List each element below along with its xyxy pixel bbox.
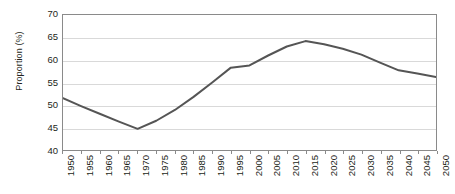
- x-axis-tick-mark: [100, 151, 101, 154]
- x-axis-tick-mark: [400, 151, 401, 154]
- x-axis-tick-label: 2000: [254, 155, 264, 176]
- x-axis-tick-mark: [231, 151, 232, 154]
- y-axis-tick-label: 70: [47, 9, 58, 19]
- x-axis-tick-mark: [137, 151, 138, 154]
- y-axis-tick-labels: 40455055606570: [36, 14, 58, 151]
- y-axis-tick-label: 55: [47, 78, 58, 88]
- x-axis-tick-label: 2040: [404, 155, 414, 176]
- x-axis-tick-mark: [156, 151, 157, 154]
- x-axis-tick-mark: [287, 151, 288, 154]
- x-axis-tick-label: 1965: [122, 155, 132, 176]
- x-axis-tick-mark: [268, 151, 269, 154]
- series-line-proportion: [63, 15, 436, 150]
- x-axis-tick-mark: [250, 151, 251, 154]
- data-line: [63, 41, 436, 129]
- x-axis-tick-label: 1975: [160, 155, 170, 176]
- x-axis-tick-label: 2020: [329, 155, 339, 176]
- x-axis-tick-mark: [306, 151, 307, 154]
- x-axis-tick-label: 2015: [310, 155, 320, 176]
- x-axis-tick-label: 2025: [347, 155, 357, 176]
- plot-area: [62, 14, 437, 151]
- x-axis-tick-mark: [381, 151, 382, 154]
- x-axis-tick-mark: [437, 151, 438, 154]
- x-axis-tick-label: 2010: [291, 155, 301, 176]
- y-axis-tick-label: 40: [47, 146, 58, 156]
- y-axis-tick-label: 65: [47, 32, 58, 42]
- x-axis-tick-label: 2045: [422, 155, 432, 176]
- x-axis-tick-mark: [343, 151, 344, 154]
- y-axis-tick-label: 45: [47, 123, 58, 133]
- x-axis-tick-label: 1980: [179, 155, 189, 176]
- x-axis-tick-label: 1950: [66, 155, 76, 176]
- x-axis-tick-label: 2030: [366, 155, 376, 176]
- x-axis-tick-mark: [193, 151, 194, 154]
- x-axis-tick-label: 1970: [141, 155, 151, 176]
- x-axis-tick-label: 2050: [441, 155, 451, 176]
- x-axis-tick-mark: [418, 151, 419, 154]
- x-axis-tick-label: 1995: [235, 155, 245, 176]
- x-axis-tick-label: 1990: [216, 155, 226, 176]
- x-axis-tick-label: 1960: [104, 155, 114, 176]
- x-axis-tick-labels: 1950195519601965197019751980198519901995…: [62, 155, 437, 193]
- x-axis-tick-label: 2005: [272, 155, 282, 176]
- x-axis-tick-mark: [325, 151, 326, 154]
- x-axis-tick-mark: [362, 151, 363, 154]
- line-chart: Proportion (%) 40455055606570 1950195519…: [0, 0, 455, 194]
- y-axis-tick-label: 50: [47, 101, 58, 111]
- y-axis-tick-label: 60: [47, 55, 58, 65]
- x-axis-tick-mark: [212, 151, 213, 154]
- x-axis-tick-mark: [118, 151, 119, 154]
- x-axis-tick-label: 1955: [85, 155, 95, 176]
- x-axis-tick-label: 2035: [385, 155, 395, 176]
- x-axis-tick-mark: [175, 151, 176, 154]
- x-axis-tick-label: 1985: [197, 155, 207, 176]
- x-axis-tick-mark: [62, 151, 63, 154]
- x-axis-tick-mark: [81, 151, 82, 154]
- y-axis-title: Proportion (%): [14, 6, 24, 116]
